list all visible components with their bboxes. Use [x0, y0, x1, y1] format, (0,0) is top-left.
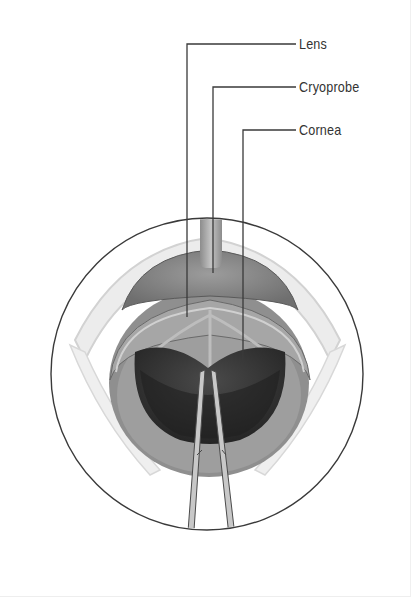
diagram-canvas: Lens Cryoprobe Cornea — [0, 0, 411, 597]
label-cryoprobe: Cryoprobe — [299, 79, 359, 95]
label-lens: Lens — [299, 36, 327, 52]
surgical-field — [70, 210, 345, 545]
label-cornea: Cornea — [299, 122, 341, 138]
